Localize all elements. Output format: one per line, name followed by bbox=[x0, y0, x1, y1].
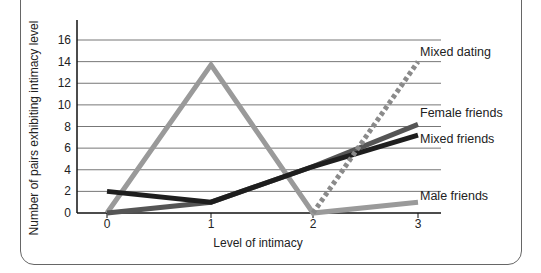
line-chart: 0246810121416 0123 Level of intimacy Num… bbox=[0, 0, 541, 273]
x-tick-label: 3 bbox=[415, 217, 422, 231]
y-tick-labels: 0246810121416 bbox=[58, 33, 72, 220]
y-tick-label: 14 bbox=[58, 55, 72, 69]
y-tick-label: 10 bbox=[58, 98, 72, 112]
y-axis-label: Number of pairs exhibiting intimacy leve… bbox=[27, 21, 41, 236]
y-tick-label: 12 bbox=[58, 76, 72, 90]
x-tick-labels: 0123 bbox=[104, 213, 422, 231]
y-tick-label: 4 bbox=[64, 163, 71, 177]
legend-label-female-friends: Female friends bbox=[420, 106, 503, 120]
y-tick-label: 16 bbox=[58, 33, 72, 47]
x-tick-label: 2 bbox=[310, 217, 317, 231]
series-lines bbox=[107, 62, 418, 213]
series-male-friends bbox=[107, 65, 418, 213]
y-tick-label: 8 bbox=[64, 120, 71, 134]
x-tick-label: 1 bbox=[208, 217, 215, 231]
x-axis-label: Level of intimacy bbox=[213, 236, 302, 250]
y-tick-label: 6 bbox=[64, 141, 71, 155]
legend-label-male-friends: Male friends bbox=[420, 189, 488, 203]
y-tick-label: 2 bbox=[64, 184, 71, 198]
gridlines bbox=[77, 40, 441, 191]
legend-label-mixed-friends: Mixed friends bbox=[420, 132, 494, 146]
legend-label-mixed-dating: Mixed dating bbox=[420, 45, 491, 59]
x-tick-label: 0 bbox=[104, 217, 111, 231]
inline-legend: Mixed datingFemale friendsMixed friendsM… bbox=[420, 45, 503, 203]
y-tick-label: 0 bbox=[64, 206, 71, 220]
